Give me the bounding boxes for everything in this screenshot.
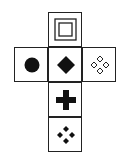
- face-right: [82, 47, 116, 82]
- four-hollow-diamonds-icon: [83, 48, 117, 83]
- face-left: [14, 47, 48, 82]
- nested-squares-icon: [49, 13, 83, 48]
- filled-circle-icon: [15, 48, 49, 83]
- filled-diamond-icon: [49, 48, 83, 83]
- face-top: [48, 12, 82, 47]
- face-center: [48, 47, 82, 82]
- filled-cross-icon: [49, 83, 83, 118]
- four-filled-diamonds-icon: [49, 118, 83, 153]
- face-below-center: [48, 82, 82, 117]
- face-bottom: [48, 117, 82, 152]
